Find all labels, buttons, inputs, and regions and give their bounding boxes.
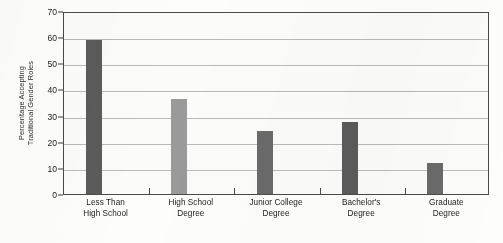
y-axis-title: Percentage Accepting Traditional Gender … [14,18,40,188]
y-axis-tick-60: 60 [47,33,57,43]
x-axis-label-line: Degree [342,209,380,220]
y-axis-tick-70: 70 [47,7,57,17]
y-axis-title-line-1: Percentage Accepting [18,66,27,140]
bar [171,99,187,194]
y-axis-tick-30: 30 [47,112,57,122]
y-axis-tick-40: 40 [47,85,57,95]
y-axis-tick-50: 50 [47,59,57,69]
x-axis-label-line: High School [168,198,213,209]
y-axis-tick-20: 20 [47,138,57,148]
bar [427,163,443,194]
x-axis-label-line: Degree [168,209,213,220]
bar [342,122,358,194]
bar [86,40,102,194]
x-axis-category-labels: Less ThanHigh SchoolHigh SchoolDegreeJun… [63,198,489,240]
x-axis-label: Less ThanHigh School [83,198,128,220]
x-axis-label: GraduateDegree [429,198,464,220]
plot-area [63,12,489,195]
x-axis-label-line: High School [83,209,128,220]
y-axis-tick-0: 0 [52,190,57,200]
x-axis-label-line: Degree [429,209,464,220]
x-axis-label-line: Junior College [249,198,302,209]
x-axis-label: Junior CollegeDegree [249,198,302,220]
x-axis-label: High SchoolDegree [168,198,213,220]
x-axis-label-line: Less Than [83,198,128,209]
y-axis-title-line-2: Traditional Gender Roles [27,61,36,145]
bars-layer [64,13,488,194]
x-axis-label-line: Bachelor's [342,198,380,209]
y-axis-tick-labels: 010203040506070 [38,12,60,195]
bar-chart: Percentage Accepting Traditional Gender … [0,0,503,243]
x-axis-label-line: Degree [249,209,302,220]
x-axis-label-line: Graduate [429,198,464,209]
x-axis-label: Bachelor'sDegree [342,198,380,220]
bar [257,131,273,194]
y-axis-tick-10: 10 [47,164,57,174]
